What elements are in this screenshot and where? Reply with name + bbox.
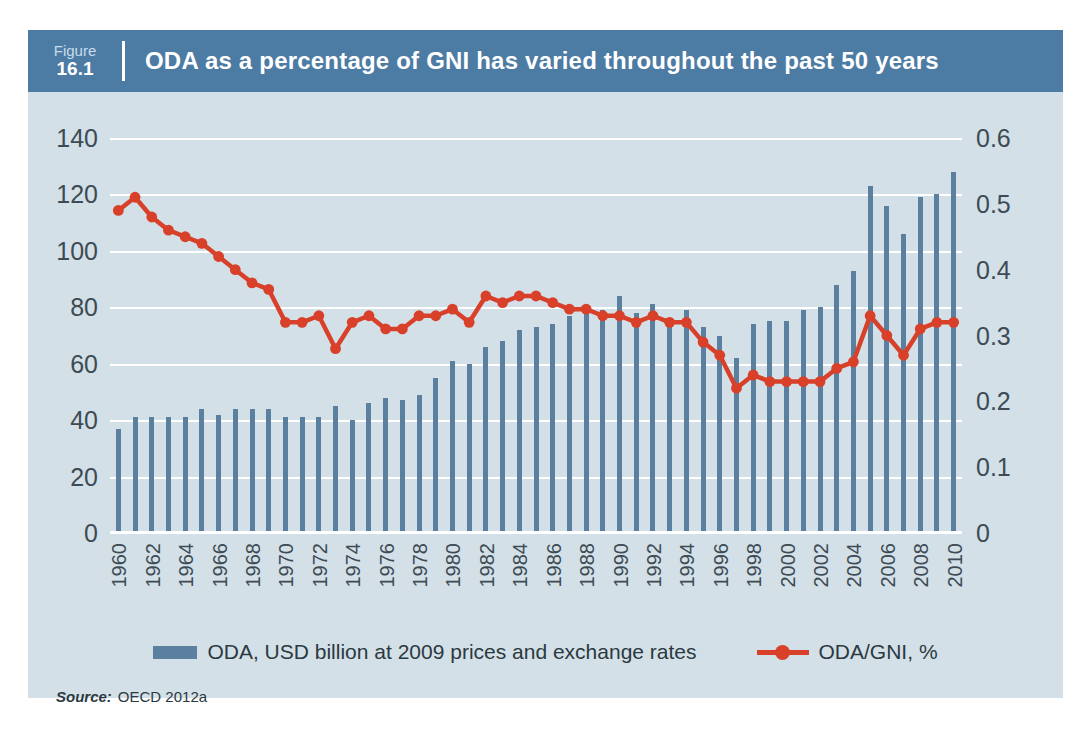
line-marker xyxy=(113,205,124,216)
source-note: Source:OECD 2012a xyxy=(56,688,207,705)
line-marker xyxy=(430,310,441,321)
legend-label-line: ODA/GNI, % xyxy=(819,640,938,664)
line-marker xyxy=(364,310,375,321)
x-axis-tick-label: 1990 xyxy=(610,543,633,588)
left-axis-tick-label: 100 xyxy=(56,236,98,265)
left-axis-tick-label: 20 xyxy=(70,462,98,491)
line-marker xyxy=(230,264,241,275)
line-marker xyxy=(263,284,274,295)
line-marker xyxy=(213,251,224,262)
bar-swatch-icon xyxy=(153,646,197,659)
line-marker xyxy=(564,304,575,315)
line-marker xyxy=(146,212,157,223)
line-marker xyxy=(698,337,709,348)
line-marker xyxy=(163,225,174,236)
x-axis-tick-label: 1962 xyxy=(142,543,165,588)
right-axis-tick-label: 0.3 xyxy=(976,321,1011,350)
x-axis-tick-label: 1988 xyxy=(576,543,599,588)
x-axis-tick-label: 1966 xyxy=(209,543,232,588)
legend-item-oda-gni-line: ODA/GNI, % xyxy=(757,640,938,664)
right-axis-tick-label: 0.6 xyxy=(976,124,1011,153)
left-axis-tick-label: 0 xyxy=(84,519,98,548)
line-marker xyxy=(664,317,675,328)
line-marker xyxy=(497,297,508,308)
x-axis-tick-label: 1984 xyxy=(509,543,532,588)
line-marker xyxy=(347,317,358,328)
x-axis-tick-label: 1998 xyxy=(743,543,766,588)
line-marker xyxy=(447,304,458,315)
page-title: ODA as a percentage of GNI has varied th… xyxy=(145,47,939,75)
figure-label-word: Figure xyxy=(32,43,118,59)
x-axis-tick-label: 1986 xyxy=(543,543,566,588)
line-marker xyxy=(581,304,592,315)
line-marker xyxy=(313,310,324,321)
x-axis-tick-label: 2008 xyxy=(910,543,933,588)
line-marker xyxy=(831,363,842,374)
x-axis-tick-label: 1992 xyxy=(643,543,666,588)
x-axis-baseline xyxy=(110,531,962,534)
line-marker xyxy=(280,317,291,328)
figure-header-bar: Figure 16.1 ODA as a percentage of GNI h… xyxy=(28,30,1063,92)
right-axis-tick-label: 0.2 xyxy=(976,387,1011,416)
line-marker xyxy=(648,310,659,321)
x-axis-tick-label: 1972 xyxy=(309,543,332,588)
line-marker xyxy=(681,317,692,328)
left-axis-tick-label: 80 xyxy=(70,293,98,322)
line-marker xyxy=(480,291,491,302)
legend-item-oda-bar: ODA, USD billion at 2009 prices and exch… xyxy=(153,640,696,664)
line-marker xyxy=(798,376,809,387)
line-marker xyxy=(848,356,859,367)
line-marker xyxy=(597,310,608,321)
x-axis-tick-label: 1968 xyxy=(242,543,265,588)
figure-panel: Figure 16.1 ODA as a percentage of GNI h… xyxy=(28,30,1063,698)
x-axis-tick-label: 1994 xyxy=(676,543,699,588)
line-marker xyxy=(714,350,725,361)
x-axis-tick-label: 2000 xyxy=(777,543,800,588)
x-axis-tick-label: 1978 xyxy=(409,543,432,588)
line-marker xyxy=(781,376,792,387)
line-marker xyxy=(915,324,926,335)
line-marker xyxy=(948,317,959,328)
line-marker xyxy=(631,317,642,328)
line-marker xyxy=(414,310,425,321)
x-axis-tick-label: 1980 xyxy=(442,543,465,588)
plot-region: 020406080100120140 00.10.20.30.40.50.6 1… xyxy=(110,138,962,533)
x-axis-tick-label: 2006 xyxy=(877,543,900,588)
line-marker xyxy=(881,330,892,341)
x-axis-tick-label: 1974 xyxy=(342,543,365,588)
figure-number-block: Figure 16.1 xyxy=(28,43,118,80)
chart-area: 020406080100120140 00.10.20.30.40.50.6 1… xyxy=(28,92,1063,698)
line-marker xyxy=(247,277,258,288)
line-marker-dot xyxy=(775,645,790,660)
line-marker xyxy=(380,324,391,335)
x-axis-tick-label: 2002 xyxy=(810,543,833,588)
line-marker xyxy=(464,317,475,328)
line-marker xyxy=(932,317,943,328)
line-marker xyxy=(764,376,775,387)
line-series xyxy=(110,138,962,533)
right-axis-tick-label: 0.1 xyxy=(976,453,1011,482)
x-axis-tick-label: 1982 xyxy=(476,543,499,588)
line-marker xyxy=(514,291,525,302)
chart-legend: ODA, USD billion at 2009 prices and exch… xyxy=(28,640,1063,664)
figure-page: Figure 16.1 ODA as a percentage of GNI h… xyxy=(0,0,1089,737)
line-marker xyxy=(547,297,558,308)
line-marker xyxy=(330,343,341,354)
line-marker xyxy=(297,317,308,328)
line-marker-icon xyxy=(757,644,809,660)
line-marker xyxy=(180,231,191,242)
line-marker xyxy=(196,238,207,249)
x-axis-tick-label: 1976 xyxy=(376,543,399,588)
source-text: OECD 2012a xyxy=(118,688,207,705)
x-axis-tick-label: 1970 xyxy=(275,543,298,588)
line-marker xyxy=(898,350,909,361)
line-marker xyxy=(531,291,542,302)
left-axis-tick-label: 140 xyxy=(56,124,98,153)
x-axis-tick-label: 1960 xyxy=(108,543,131,588)
right-axis-tick-label: 0 xyxy=(976,519,990,548)
left-axis-tick-label: 120 xyxy=(56,180,98,209)
line-marker xyxy=(130,192,141,203)
line-marker xyxy=(865,310,876,321)
legend-label-bar: ODA, USD billion at 2009 prices and exch… xyxy=(207,640,696,664)
right-axis-tick-label: 0.5 xyxy=(976,189,1011,218)
